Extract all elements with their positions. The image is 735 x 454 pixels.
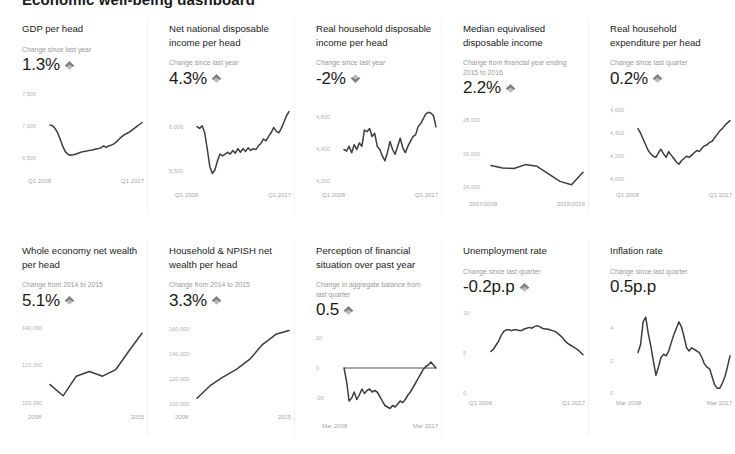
sparkline-chart: 200-20 [316, 326, 438, 422]
change-label: Change in aggregate balance from last qu… [316, 280, 433, 299]
x-axis-tick-start: 2008 [175, 414, 188, 420]
card-inflation-rate[interactable]: Inflation rateChange since last quarter0… [588, 230, 735, 452]
x-axis: Q1 2008Q1 2017 [316, 192, 438, 204]
y-axis-tick: 4,400 [316, 146, 330, 152]
arrow-up-icon [211, 73, 222, 84]
headline-value: 5.1% [22, 291, 60, 311]
x-axis-tick-end: Q1 2017 [562, 400, 585, 406]
arrow-up-icon [519, 282, 530, 293]
y-axis-tick: 4,600 [316, 114, 330, 120]
headline: 2.2% [463, 78, 580, 98]
headline-value: -2% [316, 69, 346, 89]
card-unemployment-rate[interactable]: Unemployment rateChange since last quart… [441, 230, 588, 452]
x-axis: Mar 2008Mar 2017 [316, 423, 438, 435]
x-axis: 2007/20082015/2016 [463, 201, 585, 213]
card-net-national-disposable-income-per-head[interactable]: Net national disposable income per headC… [147, 8, 294, 230]
arrow-up-icon [64, 295, 75, 306]
card-real-household-disposable-income-per-head[interactable]: Real household disposable income per hea… [294, 8, 441, 230]
y-axis-tick: 4 [610, 325, 613, 331]
y-axis-tick: 7,500 [22, 91, 36, 97]
headline-value: 1.3% [22, 55, 60, 75]
y-axis-tick: 20 [316, 335, 322, 341]
headline-value: 0.5p.p [610, 277, 656, 297]
x-axis-tick-end: Q1 2017 [268, 192, 291, 198]
headline: -0.2p.p [463, 277, 580, 297]
dashboard-grid: GDP per headChange since last year1.3%7,… [0, 8, 735, 452]
x-axis: 20082015 [169, 414, 291, 426]
card-title: Real household expenditure per head [610, 22, 727, 49]
change-label: Change since last year [22, 45, 139, 55]
x-axis-tick-end: 2015/2016 [557, 201, 585, 207]
y-axis-tick: 5,500 [169, 168, 183, 174]
arrow-up-icon [343, 305, 354, 316]
card-median-equivalised-disposable-income[interactable]: Median equivalised disposable incomeChan… [441, 8, 588, 230]
x-axis-tick-end: Q1 2017 [709, 192, 732, 198]
arrow-down-icon [350, 73, 361, 84]
card-title: Household & NPISH net wealth per head [169, 244, 286, 271]
sparkline-chart: 7,5007,0006,500 [22, 81, 144, 177]
sparkline-chart: 160,000140,000120,000100,000 [169, 317, 291, 413]
x-axis-tick-start: Q1 2008 [616, 192, 639, 198]
card-real-household-expenditure-per-head[interactable]: Real household expenditure per headChang… [588, 8, 735, 230]
y-axis-tick: 5 [463, 350, 466, 356]
x-axis: Mar 2008Mar 2017 [610, 400, 732, 412]
y-axis-tick: 100,000 [22, 400, 42, 406]
headline: 0.5p.p [610, 277, 727, 297]
change-label: Change since last year [169, 58, 286, 68]
y-axis-tick: 4,200 [316, 178, 330, 184]
card-gdp-per-head[interactable]: GDP per headChange since last year1.3%7,… [0, 8, 147, 230]
headline-value: -0.2p.p [463, 277, 515, 297]
y-axis-tick: 4,000 [610, 176, 624, 182]
card-perception-of-financial-situation-over-past-year[interactable]: Perception of financial situation over p… [294, 230, 441, 452]
headline: -2% [316, 69, 433, 89]
headline: 1.3% [22, 55, 139, 75]
x-axis: Q1 2008Q1 2017 [463, 400, 585, 412]
y-axis-tick: 2 [610, 358, 613, 364]
sparkline-chart: 420 [610, 303, 732, 399]
y-axis-tick: 26,000 [463, 151, 480, 157]
y-axis-tick: 28,000 [463, 117, 480, 123]
headline: 3.3% [169, 291, 286, 311]
y-axis-tick: 160,000 [169, 326, 189, 332]
card-title: Perception of financial situation over p… [316, 244, 433, 271]
arrow-up-icon [652, 73, 663, 84]
x-axis-tick-start: Q1 2008 [28, 178, 51, 184]
headline-value: 0.2% [610, 69, 648, 89]
card-title: Median equivalised disposable income [463, 22, 580, 49]
card-title: Net national disposable income per head [169, 22, 286, 49]
x-axis-tick-start: 2008 [28, 414, 41, 420]
page-title: Economic well-being dashboard [22, 0, 722, 8]
change-label: Change from financial year ending 2015 t… [463, 58, 580, 77]
x-axis-tick-start: 2007/2008 [469, 201, 497, 207]
x-axis-tick-start: Q1 2008 [322, 192, 345, 198]
card-title: Inflation rate [610, 244, 727, 258]
y-axis-tick: 0 [610, 390, 613, 396]
y-axis-tick: 140,000 [22, 325, 42, 331]
headline: 0.5 [316, 300, 433, 320]
y-axis-tick: 120,000 [169, 376, 189, 382]
x-axis-tick-end: 2015 [131, 414, 144, 420]
change-label: Change from 2014 to 2015 [169, 280, 286, 290]
x-axis: Q1 2008Q1 2017 [22, 178, 144, 190]
change-label: Change since last quarter [463, 267, 580, 277]
change-label: Change since last quarter [610, 58, 727, 68]
card-household-npish-net-wealth-per-head[interactable]: Household & NPISH net wealth per headCha… [147, 230, 294, 452]
headline-value: 4.3% [169, 69, 207, 89]
y-axis-tick: 140,000 [169, 351, 189, 357]
y-axis-tick: 4,600 [610, 107, 624, 113]
x-axis-tick-start: Q1 2008 [175, 192, 198, 198]
card-whole-economy-net-wealth-per-head[interactable]: Whole economy net wealth per headChange … [0, 230, 147, 452]
card-title: GDP per head [22, 22, 139, 36]
headline: 0.2% [610, 69, 727, 89]
x-axis-tick-start: Q1 2008 [469, 400, 492, 406]
y-axis-tick: 100,000 [169, 401, 189, 407]
change-label: Change since last year [316, 58, 433, 68]
sparkline-chart: 1050 [463, 303, 585, 399]
y-axis-tick: 4,400 [610, 130, 624, 136]
headline: 5.1% [22, 291, 139, 311]
card-title: Real household disposable income per hea… [316, 22, 433, 49]
y-axis-tick: 0 [316, 365, 319, 371]
change-label: Change from 2014 to 2015 [22, 280, 139, 290]
card-title: Unemployment rate [463, 244, 580, 258]
card-title: Whole economy net wealth per head [22, 244, 139, 271]
